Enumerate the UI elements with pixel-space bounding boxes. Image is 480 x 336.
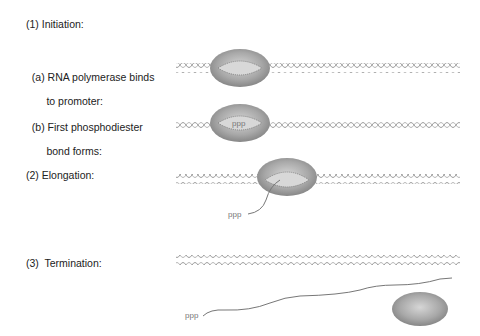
dna-helix-elongation [176,174,460,184]
ppp-annotation-elongation: ppp [228,210,242,219]
ppp-annotation-termination: ppp [185,311,199,320]
transcription-diagram: ppp ppp ppp [0,0,480,336]
rna-polymerase-a [210,49,270,87]
ppp-annotation-b: ppp [232,119,246,128]
dna-helix-termination [176,255,460,265]
rna-polymerase-b: ppp [210,104,270,142]
released-rna-polymerase [392,292,448,326]
rna-polymerase-elongation [257,158,317,196]
